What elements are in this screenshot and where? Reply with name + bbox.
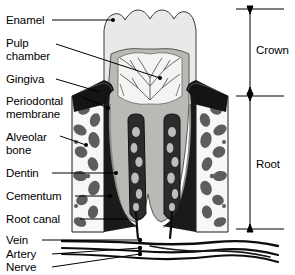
tooth-diagram: Enamel Pulp chamber Gingiva Periodontal … <box>0 0 295 275</box>
label-dentin: Dentin <box>6 167 39 180</box>
label-artery: Artery <box>6 248 36 261</box>
label-alveolar-line2: bone <box>6 144 31 157</box>
label-pulp-chamber-line2: chamber <box>6 50 50 63</box>
label-root: Root <box>256 158 280 171</box>
label-alveolar-line1: Alveolar <box>6 131 47 144</box>
label-gingiva: Gingiva <box>6 73 44 86</box>
label-enamel: Enamel <box>6 14 44 27</box>
label-periodontal-line1: Periodontal <box>6 95 63 108</box>
label-pulp-chamber-line1: Pulp <box>6 37 29 50</box>
label-root-canal: Root canal <box>6 213 60 226</box>
label-nerve: Nerve <box>6 261 36 274</box>
label-vein: Vein <box>6 234 28 247</box>
label-cementum: Cementum <box>6 190 61 203</box>
label-periodontal-line2: membrane <box>6 108 60 121</box>
label-crown: Crown <box>256 44 289 57</box>
dimension-brackets <box>236 6 284 232</box>
